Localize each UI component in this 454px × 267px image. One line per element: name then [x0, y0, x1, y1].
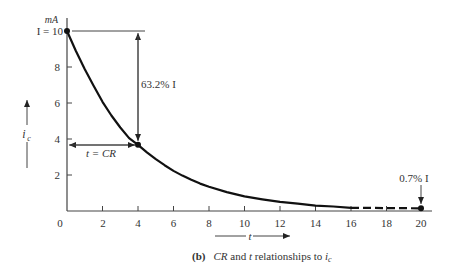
axes — [67, 18, 432, 211]
svg-text:20: 20 — [416, 217, 428, 229]
svg-text:2: 2 — [100, 217, 106, 229]
svg-text:14: 14 — [310, 217, 322, 229]
end-point — [418, 205, 424, 211]
y-top-label: I = 10 — [37, 25, 64, 37]
decay-curve — [67, 31, 138, 145]
svg-text:12: 12 — [275, 217, 286, 229]
svg-text:63.2% I: 63.2% I — [141, 78, 176, 90]
pct-07-annotation: 0.7% I — [399, 172, 429, 204]
x-tick-labels: 0 2 4 6 8 10 12 14 16 18 20 — [57, 217, 427, 229]
y-axis-label: i c — [22, 100, 31, 168]
decay-curve-solid — [67, 31, 351, 208]
svg-text:c: c — [27, 134, 31, 143]
x-axis-label: t — [215, 230, 290, 242]
capacitor-current-diagram: mA I = 10 2 4 6 8 0 2 4 6 8 10 12 14 16 … — [0, 0, 454, 267]
time-constant-annotation: t = CR — [69, 145, 135, 159]
svg-text:4: 4 — [135, 217, 141, 229]
svg-text:10: 10 — [239, 217, 251, 229]
svg-text:0: 0 — [57, 217, 63, 229]
start-point — [64, 28, 70, 34]
svg-text:4: 4 — [55, 133, 61, 145]
svg-text:16: 16 — [346, 217, 358, 229]
svg-text:i: i — [22, 127, 25, 141]
svg-text:t: t — [248, 230, 252, 242]
svg-text:6: 6 — [55, 97, 61, 109]
svg-text:18: 18 — [381, 217, 393, 229]
pct-63-annotation: 63.2% I — [138, 33, 176, 141]
svg-text:8: 8 — [55, 61, 61, 73]
svg-text:8: 8 — [206, 217, 212, 229]
svg-text:t = CR: t = CR — [86, 147, 116, 159]
time-constant-point — [135, 142, 141, 148]
svg-text:0.7% I: 0.7% I — [399, 172, 429, 184]
figure-caption: (b)CR and t relationships to ic — [192, 250, 332, 264]
y-unit-label: mA — [45, 14, 59, 25]
y-tick-labels: mA I = 10 2 4 6 8 — [37, 14, 64, 181]
svg-text:2: 2 — [55, 169, 61, 181]
svg-text:6: 6 — [171, 217, 177, 229]
